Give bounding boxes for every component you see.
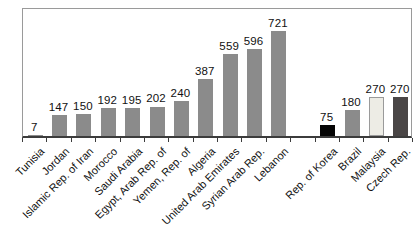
bar [320, 125, 335, 136]
axis-tick [266, 138, 267, 142]
bar [393, 97, 408, 136]
bar-value-label: 147 [49, 101, 69, 113]
bar [101, 108, 116, 136]
bar [369, 97, 384, 136]
axis-tick [120, 138, 121, 142]
axis-tick [290, 138, 291, 142]
bar-value-label: 75 [320, 111, 333, 123]
axis-tick [412, 138, 413, 142]
bar-value-label: 195 [122, 94, 142, 106]
bar-value-label: 387 [195, 65, 215, 77]
axis-tick [71, 138, 72, 142]
bar-value-label: 270 [390, 83, 410, 95]
bar [76, 114, 91, 136]
bar-value-label: 559 [219, 40, 239, 52]
bar-value-label: 721 [268, 17, 288, 29]
bar-value-label: 202 [146, 92, 166, 104]
bar-value-label: 270 [366, 83, 386, 95]
axis-tick [46, 138, 47, 142]
bar-value-label: 180 [341, 96, 361, 108]
bar [198, 79, 213, 136]
axis-tick [388, 138, 389, 142]
bar-value-label: 240 [171, 87, 191, 99]
bar [247, 49, 262, 136]
axis-tick [22, 138, 23, 142]
axis-tick [315, 138, 316, 142]
axis-tick [168, 138, 169, 142]
axis-tick [144, 138, 145, 142]
axis-tick [339, 138, 340, 142]
bar-value-label: 7 [31, 121, 38, 133]
axis-tick [217, 138, 218, 142]
bar [150, 107, 165, 137]
category-label: Rep. of Korea [283, 145, 339, 201]
axis-tick [193, 138, 194, 142]
bar-value-label: 596 [244, 35, 264, 47]
bar [125, 108, 140, 136]
bar [52, 115, 67, 136]
plot-area [22, 8, 412, 138]
axis-tick [363, 138, 364, 142]
bar-value-label: 192 [97, 94, 117, 106]
bar [174, 101, 189, 136]
axis-tick [95, 138, 96, 142]
bar-chart: 7Tunisia147Jordan150Islamic Rep. of Iran… [0, 0, 418, 238]
bar [271, 31, 286, 136]
bar [345, 110, 360, 136]
category-label: Tunisia [13, 145, 46, 178]
bar-value-label: 150 [73, 100, 93, 112]
bar [223, 54, 238, 136]
bar [28, 135, 43, 137]
axis-tick [241, 138, 242, 142]
